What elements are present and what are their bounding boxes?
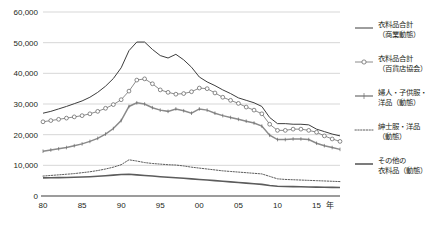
- series-marker-1: [119, 98, 123, 102]
- x-axis-tick-label: 15: [312, 201, 321, 210]
- legend-item-3: 紳士服・洋品（動態）: [355, 122, 420, 141]
- legend-item-0: 衣料品合計（商業動態）: [355, 20, 420, 39]
- y-axis-tick-label: 40,000: [14, 69, 39, 78]
- series-marker-1: [315, 130, 319, 134]
- legend-label-line1-1: 衣料品合計: [378, 54, 414, 63]
- series-marker-1: [166, 90, 170, 94]
- legend-item-1: 衣料品合計（百貨店協会）: [355, 54, 426, 73]
- y-axis-tick-label: 20,000: [14, 131, 39, 140]
- series-marker-1: [236, 101, 240, 105]
- y-axis-tick-label: 10,000: [14, 161, 39, 170]
- series-marker-1: [190, 90, 194, 94]
- chart-legend: 衣料品合計（商業動態）衣料品合計（百貨店協会）婦人・子供服・洋品（動態）紳士服・…: [355, 20, 426, 175]
- legend-label-line1-3: 紳士服・洋品: [378, 122, 420, 131]
- series-marker-1: [276, 128, 280, 132]
- y-axis-tick-label: 60,000: [14, 8, 39, 17]
- series-marker-1: [244, 105, 248, 109]
- legend-label-line2-4: 衣料品（動態）: [378, 166, 426, 175]
- legend-label-line1-2: 婦人・子供服・: [378, 88, 426, 97]
- series-group: [41, 42, 342, 188]
- legend-item-2: 婦人・子供服・洋品（動態）: [355, 88, 426, 107]
- series-marker-1: [330, 137, 334, 141]
- y-axis-labels-group: 010,00020,00030,00040,00050,00060,000: [14, 8, 39, 201]
- series-marker-1: [182, 92, 186, 96]
- legend-label-line2-2: 洋品（動態）: [378, 98, 420, 107]
- series-marker-1: [291, 127, 295, 131]
- series-marker-1: [80, 114, 84, 118]
- x-axis-tick-label: 90: [117, 201, 126, 210]
- legend-label-line1-4: その他の: [378, 156, 406, 165]
- series-marker-1: [252, 108, 256, 112]
- line-chart: 010,00020,00030,00040,00050,00060,000 80…: [0, 0, 426, 230]
- series-marker-1: [127, 89, 131, 93]
- x-axis-tick-label: 10: [273, 201, 282, 210]
- x-axis-tick-label: 85: [78, 201, 87, 210]
- legend-item-4: その他の衣料品（動態）: [355, 156, 426, 175]
- series-line-4: [43, 174, 340, 187]
- series-marker-1: [151, 82, 155, 86]
- y-axis-tick-label: 0: [34, 192, 39, 201]
- legend-marker-1: [362, 60, 366, 64]
- y-axis-tick-label: 50,000: [14, 39, 39, 48]
- series-marker-1: [268, 122, 272, 126]
- x-axis-labels-group: 8085909500051015年: [39, 200, 334, 210]
- legend-label-line1-0: 衣料品合計: [378, 20, 414, 29]
- series-marker-1: [307, 128, 311, 132]
- y-axis-tick-label: 30,000: [14, 100, 39, 109]
- x-axis-tick-label: 95: [156, 201, 165, 210]
- x-axis-tick-label: 80: [39, 201, 48, 210]
- series-marker-1: [197, 86, 201, 90]
- series-marker-1: [221, 95, 225, 99]
- series-marker-1: [88, 112, 92, 116]
- series-marker-1: [322, 134, 326, 138]
- series-marker-1: [299, 127, 303, 131]
- series-marker-1: [65, 116, 69, 120]
- series-marker-1: [158, 88, 162, 92]
- series-marker-1: [111, 103, 115, 107]
- series-marker-1: [260, 112, 264, 116]
- series-marker-1: [135, 78, 139, 82]
- legend-label-line2-0: （商業動態）: [378, 30, 420, 39]
- x-axis-unit-label: 年: [326, 200, 334, 210]
- series-marker-1: [205, 87, 209, 91]
- x-axis-tick-label: 00: [195, 201, 204, 210]
- chart-container: 010,00020,00030,00040,00050,00060,000 80…: [0, 0, 426, 230]
- series-marker-1: [213, 91, 217, 95]
- series-line-1: [43, 79, 340, 142]
- series-marker-1: [49, 119, 53, 123]
- x-axis-tick-label: 05: [234, 201, 243, 210]
- series-marker-1: [57, 117, 61, 121]
- series-marker-1: [72, 115, 76, 119]
- legend-label-line2-1: （百貨店協会）: [378, 64, 426, 73]
- series-line-2: [43, 103, 340, 151]
- series-marker-1: [338, 140, 342, 144]
- series-line-0: [43, 42, 340, 136]
- legend-label-line2-3: （動態）: [378, 132, 406, 141]
- series-marker-1: [41, 120, 45, 124]
- series-marker-1: [283, 128, 287, 132]
- series-marker-1: [96, 109, 100, 113]
- series-marker-1: [104, 106, 108, 110]
- series-marker-1: [229, 98, 233, 102]
- series-marker-1: [174, 92, 178, 96]
- series-marker-1: [143, 77, 147, 81]
